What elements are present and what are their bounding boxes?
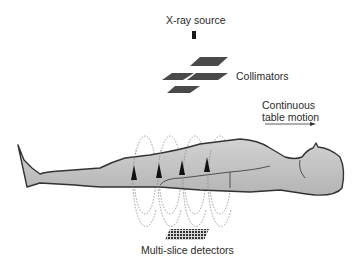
multi-slice-detector-array <box>165 229 209 240</box>
collimators-label: Collimators <box>236 70 289 82</box>
xray-source-icon <box>192 31 196 39</box>
collimator-plate-right <box>187 73 228 80</box>
ct-diagram <box>0 0 355 266</box>
table-motion-label-line2: table motion <box>262 111 319 123</box>
collimator-plate-top <box>190 57 228 66</box>
collimator-plates <box>162 57 228 93</box>
table-motion-label-line1: Continuous <box>262 99 315 111</box>
detectors-label: Multi-slice detectors <box>141 244 234 256</box>
collimator-plate-bottom <box>167 86 200 93</box>
xray-source-label: X-ray source <box>166 14 226 26</box>
